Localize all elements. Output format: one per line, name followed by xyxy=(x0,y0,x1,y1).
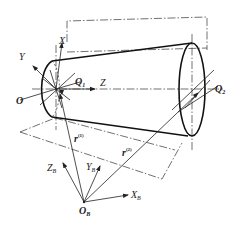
label-q2: Q2 xyxy=(215,83,225,95)
label-q1: Q1 xyxy=(75,76,85,88)
label-z: Z xyxy=(100,77,106,88)
vector-r1-line xyxy=(60,94,84,202)
lower-reference-plane xyxy=(20,118,182,179)
label-r1: r(1) xyxy=(74,133,84,144)
label-base-x: XB xyxy=(130,189,141,201)
label-base-y: YB xyxy=(86,161,96,173)
cone-bottom-edge xyxy=(52,117,188,136)
label-y: Y xyxy=(19,51,26,62)
local-frame xyxy=(20,43,95,108)
label-base-origin: OB xyxy=(79,205,90,217)
x-axis-arrow xyxy=(56,43,62,89)
label-base-z: ZB xyxy=(47,162,57,174)
label-r2: r(2) xyxy=(122,147,132,158)
label-x: X xyxy=(58,35,66,46)
cone-coordinate-diagram: O Y X Z Q1 Q2 r(1) r(2) ZB YB XB OB xyxy=(0,0,245,232)
base-z-axis-arrow xyxy=(63,163,84,202)
base-origin-dot xyxy=(83,201,85,203)
o-axis-line xyxy=(20,89,56,100)
label-o: O xyxy=(16,95,23,106)
vector-r2-line xyxy=(84,93,198,202)
